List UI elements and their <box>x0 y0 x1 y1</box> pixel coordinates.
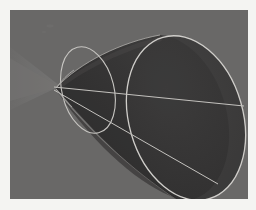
figure-page: Grayscale 3D shaded rendering of a singl… <box>0 0 256 210</box>
grain-overlay <box>10 10 248 199</box>
cone-figure-svg <box>10 10 248 199</box>
figure-frame: Grayscale 3D shaded rendering of a singl… <box>10 10 248 199</box>
